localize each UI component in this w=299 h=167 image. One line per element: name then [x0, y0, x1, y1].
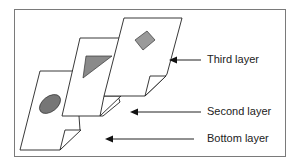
bottom-layer-arrow: [105, 136, 194, 143]
bottom-layer-label: Bottom layer: [207, 132, 269, 145]
second-layer-arrow: [130, 109, 201, 116]
third-layer-page: [104, 18, 182, 96]
second-layer-fold: [100, 96, 121, 116]
third-layer-label: Third layer: [207, 53, 259, 66]
second-layer-label: Second layer: [207, 105, 271, 118]
third-layer-arrow: [169, 57, 201, 64]
